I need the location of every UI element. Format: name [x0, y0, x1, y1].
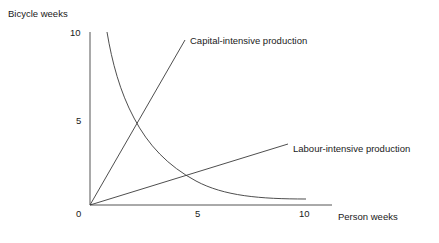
x-axis-title: Person weeks [338, 212, 398, 222]
x-tick-label-5: 5 [195, 209, 200, 219]
y-tick-label-5: 5 [76, 116, 81, 126]
origin-tick-label: 0 [76, 209, 81, 219]
labour-intensive-label: Labour-intensive production [293, 144, 410, 154]
y-axis-title: Bicycle weeks [8, 9, 68, 19]
y-tick-label-10: 10 [70, 28, 81, 38]
capital-intensive-label: Capital-intensive production [190, 36, 307, 46]
axis-lines [90, 32, 332, 205]
isoquant-figure: Bicycle weeks Person weeks Capital-inten… [0, 0, 439, 243]
isoquant-curve [107, 32, 306, 199]
x-tick-label-10: 10 [299, 209, 310, 219]
